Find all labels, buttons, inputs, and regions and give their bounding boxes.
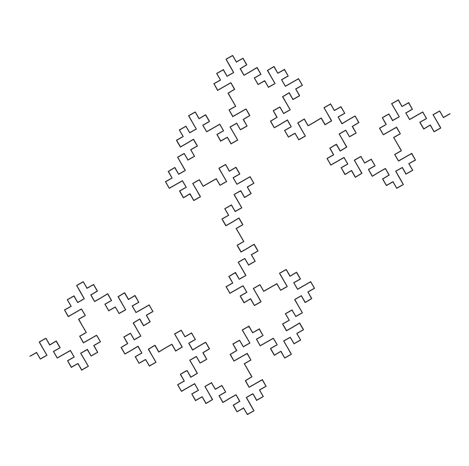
fractal-canvas [0, 0, 469, 466]
fractal-drawing [0, 0, 469, 466]
